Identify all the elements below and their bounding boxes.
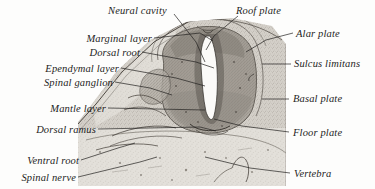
label-dorsal-ramus: Dorsal ramus xyxy=(36,124,96,135)
label-spinal-ganglion: Spinal ganglion xyxy=(44,77,113,88)
label-alar-plate: Alar plate xyxy=(296,28,340,39)
label-marginal-layer: Marginal layer xyxy=(86,33,152,44)
figure-container: Neural cavity Roof plate Marginal layer … xyxy=(0,0,375,189)
label-spinal-nerve: Spinal nerve xyxy=(21,172,76,183)
label-ependymal-layer: Ependymal layer xyxy=(45,63,119,74)
label-dorsal-root: Dorsal root xyxy=(89,47,140,58)
label-ventral-root: Ventral root xyxy=(27,155,79,166)
label-neural-cavity: Neural cavity xyxy=(108,5,167,16)
label-roof-plate: Roof plate xyxy=(236,5,281,16)
label-mantle-layer: Mantle layer xyxy=(50,103,106,114)
label-floor-plate: Floor plate xyxy=(293,127,342,138)
label-sulcus-limitans: Sulcus limitans xyxy=(294,58,360,69)
label-vertebra: Vertebra xyxy=(294,168,331,179)
label-basal-plate: Basal plate xyxy=(293,93,342,104)
